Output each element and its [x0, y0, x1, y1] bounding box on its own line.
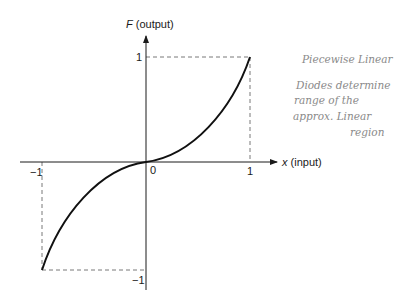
note-line-1: Piecewise Linear	[301, 53, 394, 65]
transfer-function-chart: x (input) F (output) −1 0 1 1 −1 Piecewi…	[0, 0, 412, 304]
y-axis-label: F (output)	[126, 18, 174, 30]
y-tick-neg1: −1	[132, 274, 145, 286]
x-tick-0: 0	[150, 164, 156, 176]
y-tick-1: 1	[136, 51, 142, 63]
handwritten-note: Piecewise Linear Diodes determine range …	[293, 53, 394, 138]
x-tick-neg1: −1	[30, 166, 43, 178]
x-tick-1: 1	[247, 165, 253, 177]
note-line-3: range of the	[294, 94, 359, 106]
note-line-4: approx. Linear	[293, 110, 372, 122]
x-axis-label: x (input)	[281, 156, 322, 168]
note-line-5: region	[350, 126, 385, 138]
note-line-2: Diodes determine	[295, 79, 390, 91]
